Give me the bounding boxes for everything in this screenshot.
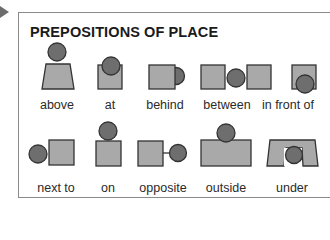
ball-under-box-icon	[267, 140, 318, 166]
ball-opposite-box-icon	[138, 141, 187, 166]
label-outside: outside	[191, 181, 261, 195]
ball-on-box-icon	[96, 122, 121, 166]
ball-next-to-box-icon	[29, 140, 74, 165]
ball-behind-box-icon	[149, 65, 185, 89]
label-under: under	[257, 181, 327, 195]
label-in-front-of: in front of	[253, 98, 323, 112]
ball-between-boxes-icon	[201, 65, 271, 89]
ball-above-box-icon	[42, 43, 74, 89]
label-opposite: opposite	[128, 181, 198, 195]
label-behind: behind	[130, 98, 200, 112]
ball-in-front-of-box-icon	[292, 65, 316, 93]
ball-at-box-icon	[98, 57, 122, 89]
label-between: between	[192, 98, 262, 112]
ball-outside-box-icon	[201, 124, 251, 166]
